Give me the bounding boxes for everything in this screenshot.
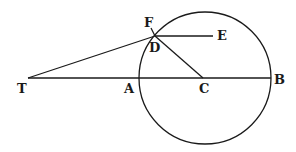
label-F: F (144, 15, 154, 30)
label-T: T (17, 81, 27, 96)
label-E: E (217, 28, 227, 43)
label-B: B (274, 72, 285, 87)
label-D: D (149, 40, 160, 55)
geometry-diagram: F D E T A C B (0, 0, 296, 152)
line-TD (28, 36, 155, 78)
label-C: C (199, 81, 209, 96)
label-A: A (123, 81, 135, 96)
line-DC (155, 36, 203, 78)
